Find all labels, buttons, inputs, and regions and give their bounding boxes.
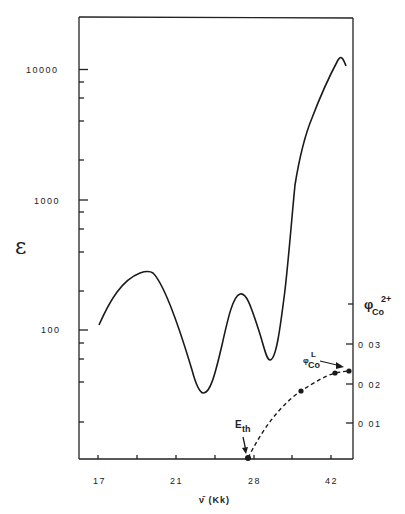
x-tick-42: 42: [325, 476, 338, 486]
y-tick-100: 100: [41, 325, 61, 335]
svg-text:Co: Co: [372, 307, 384, 317]
svg-text:2+: 2+: [381, 294, 391, 304]
x-tick-17: 17: [93, 476, 106, 486]
quantum-yield-markers: [245, 368, 352, 461]
phi-co-l-annotation: φ L Co: [303, 350, 344, 370]
x-tick-21: 21: [170, 476, 183, 486]
x-axis-label: ν̄ (Kk): [199, 495, 230, 505]
absorption-quantum-yield-chart: 10000 1000 100 ε 17 21 28 42 ν̄ (Kk) 0 0…: [0, 0, 405, 514]
y-tick-10000: 10000: [26, 65, 59, 75]
svg-text:th: th: [242, 424, 251, 434]
y-axis-label-epsilon: ε: [15, 234, 26, 259]
svg-text:L: L: [311, 350, 316, 359]
quantum-yield-curve: [248, 371, 349, 458]
absorption-curve: [99, 58, 346, 393]
svg-text:E: E: [235, 419, 242, 430]
right-tick-002: 0 02: [358, 380, 382, 390]
left-axis-ticks: [79, 70, 88, 423]
plot-frame: [79, 17, 353, 459]
right-axis-label-phi: φ Co 2+: [364, 294, 391, 317]
eth-annotation: E th: [235, 419, 251, 454]
right-tick-001: 0 01: [358, 419, 382, 429]
x-tick-28: 28: [248, 476, 261, 486]
right-tick-003: 0 03: [358, 340, 382, 350]
svg-text:Co: Co: [308, 360, 320, 370]
y-tick-1000: 1000: [34, 196, 60, 206]
right-axis-ticks: [346, 304, 353, 423]
